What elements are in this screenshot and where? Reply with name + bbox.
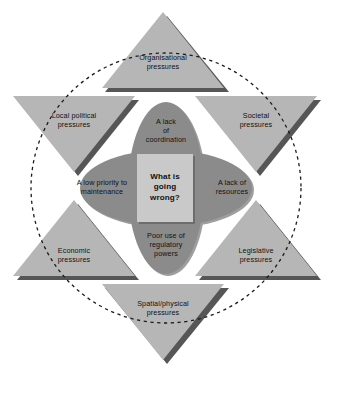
diagram-vector-layer (0, 0, 338, 393)
diagram-canvas: Organisational pressures Local political… (0, 0, 338, 393)
spatial-physical-pressures-triangle[interactable] (102, 284, 224, 360)
organisational-pressures-triangle[interactable] (102, 12, 224, 88)
core-square[interactable] (137, 154, 193, 222)
